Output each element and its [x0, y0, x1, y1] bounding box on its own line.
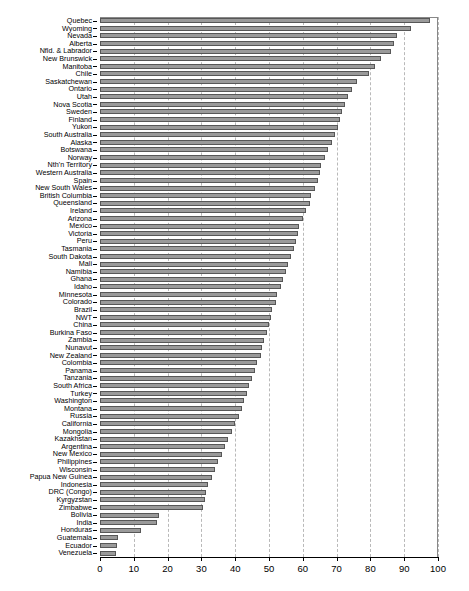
bar: [100, 467, 215, 472]
bar: [100, 535, 118, 540]
category-tick: [93, 477, 97, 478]
category-tick: [93, 424, 97, 425]
category-tick: [93, 386, 97, 387]
value-tick-label: 0: [97, 563, 102, 574]
bar: [100, 56, 381, 61]
category-tick: [93, 530, 97, 531]
category-tick: [93, 112, 97, 113]
bar: [100, 269, 286, 274]
bar: [100, 437, 228, 442]
bar: [100, 322, 269, 327]
category-tick: [93, 127, 97, 128]
plot-area: [100, 17, 438, 557]
bar: [100, 429, 232, 434]
category-tick: [93, 264, 97, 265]
category-tick: [93, 28, 97, 29]
category-tick: [93, 378, 97, 379]
category-tick: [93, 272, 97, 273]
horizontal-bar-chart: QuebecWyomingNevadaAlbertaNfld. & Labrad…: [0, 0, 469, 591]
value-tick: [201, 557, 202, 561]
category-tick: [93, 120, 97, 121]
bar: [100, 543, 117, 548]
category-tick: [93, 492, 97, 493]
category-axis-labels: QuebecWyomingNevadaAlbertaNfld. & Labrad…: [0, 17, 96, 557]
category-tick: [93, 462, 97, 463]
value-tick-label: 50: [264, 563, 275, 574]
category-tick: [93, 211, 97, 212]
category-tick: [93, 546, 97, 547]
bar: [100, 284, 281, 289]
bar: [100, 246, 294, 251]
bar: [100, 186, 315, 191]
value-tick: [100, 557, 101, 561]
value-tick: [337, 557, 338, 561]
category-tick: [93, 310, 97, 311]
bar: [100, 497, 205, 502]
category-tick: [93, 249, 97, 250]
bar: [100, 94, 348, 99]
category-tick: [93, 317, 97, 318]
bar: [100, 475, 212, 480]
bar: [100, 125, 338, 130]
bar: [100, 490, 206, 495]
category-tick: [93, 89, 97, 90]
category-label: Venezuela: [0, 549, 92, 556]
bar: [100, 406, 242, 411]
category-tick: [93, 165, 97, 166]
bar: [100, 307, 272, 312]
bar: [100, 231, 298, 236]
bar: [100, 178, 318, 183]
category-tick: [93, 226, 97, 227]
category-tick: [93, 279, 97, 280]
category-tick: [93, 181, 97, 182]
value-tick-label: 60: [298, 563, 309, 574]
bar: [100, 147, 328, 152]
bar: [100, 71, 369, 76]
bar: [100, 155, 325, 160]
bar: [100, 520, 157, 525]
category-tick: [93, 21, 97, 22]
bar: [100, 338, 264, 343]
category-tick: [93, 219, 97, 220]
bar: [100, 224, 299, 229]
category-tick: [93, 234, 97, 235]
bar: [100, 292, 277, 297]
value-tick-label: 90: [399, 563, 410, 574]
bar: [100, 64, 375, 69]
category-tick: [93, 340, 97, 341]
bar: [100, 41, 394, 46]
bar: [100, 102, 345, 107]
bar: [100, 452, 222, 457]
category-tick: [93, 203, 97, 204]
category-tick: [93, 538, 97, 539]
bar: [100, 33, 397, 38]
category-tick: [93, 500, 97, 501]
value-tick: [269, 557, 270, 561]
category-tick: [93, 393, 97, 394]
category-tick: [93, 74, 97, 75]
bar: [100, 421, 235, 426]
category-tick: [93, 470, 97, 471]
gridline: [404, 17, 405, 557]
value-tick: [168, 557, 169, 561]
bar: [100, 140, 332, 145]
bar: [100, 330, 267, 335]
value-tick-label: 40: [230, 563, 241, 574]
bar: [100, 132, 335, 137]
bar: [100, 193, 311, 198]
category-tick: [93, 302, 97, 303]
value-tick-label: 70: [331, 563, 342, 574]
category-tick: [93, 196, 97, 197]
bar: [100, 444, 225, 449]
bar: [100, 551, 116, 556]
bar: [100, 414, 239, 419]
category-tick: [93, 553, 97, 554]
bar: [100, 398, 244, 403]
category-tick: [93, 173, 97, 174]
bar: [100, 505, 203, 510]
bar: [100, 513, 159, 518]
value-axis: 0102030405060708090100: [100, 557, 438, 587]
category-tick: [93, 485, 97, 486]
value-tick-label: 20: [162, 563, 173, 574]
category-tick: [93, 363, 97, 364]
